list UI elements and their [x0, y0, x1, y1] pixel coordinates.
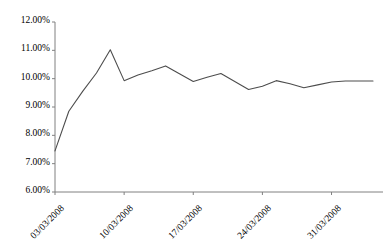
line-chart: 6.00%7.00%8.00%9.00%10.00%11.00%12.00% 0… — [0, 0, 390, 251]
x-axis-tick-labels: 03/03/200810/03/200817/03/200824/03/2008… — [0, 0, 390, 251]
x-tick-label: 31/03/2008 — [293, 203, 342, 251]
x-tick-label: 10/03/2008 — [86, 203, 135, 251]
x-tick-label: 03/03/2008 — [17, 203, 66, 251]
x-tick-label: 24/03/2008 — [224, 203, 273, 251]
x-tick-label: 17/03/2008 — [155, 203, 204, 251]
